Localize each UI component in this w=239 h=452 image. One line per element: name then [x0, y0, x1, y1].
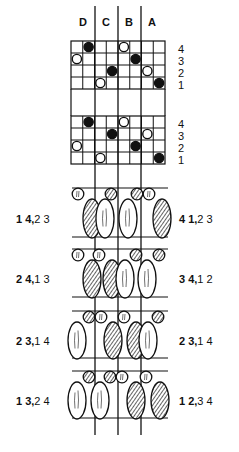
column-label-d: D: [73, 16, 93, 28]
open-hole-icon: [140, 371, 152, 383]
filled-dot-icon: [155, 153, 164, 162]
filled-dot-icon: [108, 66, 117, 75]
turning-band-1: [72, 188, 171, 238]
band-2-left-label: 2 4,1 3: [16, 273, 50, 285]
open-hole-icon: [116, 371, 128, 383]
hatched-hole-icon: [152, 311, 164, 323]
open-dot-icon: [143, 66, 152, 75]
plain-tablet-icon: [116, 260, 134, 298]
row-label: 2: [178, 143, 184, 154]
hatched-hole-icon: [83, 371, 95, 383]
row-label: 4: [178, 44, 184, 55]
band-1-left-label: 1 4,2 3: [16, 213, 50, 225]
band-2-right-label: 3 4,1 2: [179, 273, 213, 285]
hatched-tablet-icon: [153, 199, 171, 238]
row-label: 4: [178, 119, 184, 130]
open-dot-icon: [96, 78, 105, 87]
tablet-weaving-diagram: D C B A 43214321 1 4,2 34 1,2 32 4,1 33 …: [0, 0, 239, 452]
open-dot-icon: [143, 129, 152, 138]
filled-dot-icon: [84, 42, 93, 51]
row-label: 3: [178, 56, 184, 67]
plain-tablet-icon: [119, 199, 137, 238]
turning-band-2: [72, 249, 168, 298]
hatched-tablet-icon: [83, 260, 101, 298]
open-hole-icon: [143, 188, 155, 200]
open-hole-icon: [93, 249, 105, 261]
filled-dot-icon: [131, 54, 140, 63]
row-label: 3: [178, 131, 184, 142]
open-dot-icon: [72, 54, 81, 63]
column-label-b: B: [119, 16, 139, 28]
plain-tablet-icon: [68, 382, 86, 419]
row-label: 1: [178, 155, 184, 166]
filled-dot-icon: [108, 129, 117, 138]
plain-tablet-icon: [139, 322, 157, 359]
band-1-right-label: 4 1,2 3: [179, 213, 213, 225]
open-dot-icon: [72, 141, 81, 150]
hatched-hole-icon: [104, 371, 116, 383]
plain-tablet-icon: [96, 199, 114, 238]
band-4-left-label: 1 3,2 4: [16, 395, 50, 407]
band-3-right-label: 2 3,1 4: [179, 335, 213, 347]
column-label-c: C: [96, 16, 116, 28]
open-hole-icon: [72, 249, 84, 261]
row-label: 1: [178, 80, 184, 91]
open-hole-icon: [95, 311, 107, 323]
plain-tablet-icon: [138, 260, 156, 298]
open-dot-icon: [119, 42, 128, 51]
open-dot-icon: [119, 117, 128, 126]
band-4-right-label: 1 2,3 4: [179, 395, 213, 407]
hatched-tablet-icon: [104, 322, 122, 359]
open-dot-icon: [96, 153, 105, 162]
filled-dot-icon: [155, 78, 164, 87]
hatched-hole-icon: [105, 188, 117, 200]
turning-band-3: [68, 311, 168, 359]
hatched-tablet-icon: [151, 382, 169, 419]
hatched-hole-icon: [83, 311, 95, 323]
filled-dot-icon: [131, 141, 140, 150]
band-3-left-label: 2 3,1 4: [16, 335, 50, 347]
open-hole-icon: [72, 188, 84, 200]
hatched-hole-icon: [130, 249, 142, 261]
open-hole-icon: [118, 311, 130, 323]
plain-tablet-icon: [91, 382, 109, 419]
turning-bands: [68, 188, 171, 419]
hatched-tablet-icon: [127, 382, 145, 419]
filled-dot-icon: [84, 117, 93, 126]
plain-tablet-icon: [68, 322, 86, 359]
hatched-hole-icon: [153, 249, 165, 261]
column-label-a: A: [142, 16, 162, 28]
row-label: 2: [178, 68, 184, 79]
hatched-hole-icon: [131, 188, 143, 200]
diagram-canvas: [0, 0, 239, 452]
